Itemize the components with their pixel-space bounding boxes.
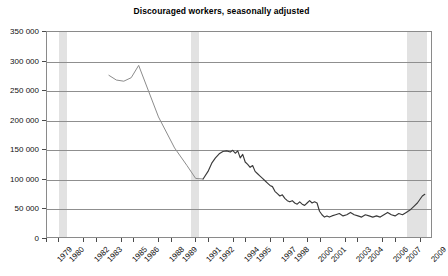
- x-axis-tick-label: 2009: [429, 245, 448, 264]
